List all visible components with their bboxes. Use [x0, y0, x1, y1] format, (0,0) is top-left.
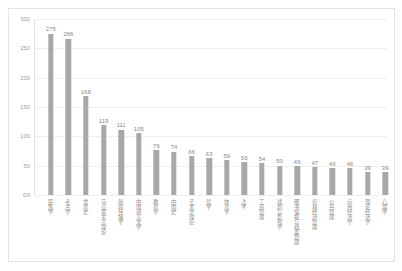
- x-axis-category: 中国语言文学: [130, 199, 148, 229]
- bar-value-label: 50: [276, 158, 283, 164]
- bar[interactable]: [118, 130, 123, 195]
- x-axis-category-label: 民族学: [48, 199, 54, 214]
- bar-value-label: 111: [117, 122, 126, 128]
- bar-slot[interactable]: 111: [112, 19, 130, 195]
- bar[interactable]: [224, 160, 229, 195]
- bar-value-label: 275: [46, 26, 56, 32]
- bar-value-label: 74: [171, 144, 178, 150]
- x-axis-category: 图书情报与档案管理: [288, 199, 306, 244]
- x-axis-category: 应用经济学: [341, 199, 359, 224]
- bar-slot[interactable]: 39: [359, 19, 377, 195]
- bar[interactable]: [83, 96, 88, 195]
- bar-value-label: 39: [382, 165, 389, 171]
- bar-value-label: 66: [188, 149, 195, 155]
- x-axis-category-label: 中国史: [171, 199, 177, 214]
- bar[interactable]: [347, 168, 352, 195]
- x-axis-category-label: 马克思主义理论: [100, 199, 106, 234]
- bar[interactable]: [136, 133, 141, 195]
- bar-slot[interactable]: 50: [271, 19, 289, 195]
- x-axis-category-label: 应用经济学: [347, 199, 353, 224]
- x-axis-category-label: 农林经济管理: [312, 199, 318, 229]
- bar-slot[interactable]: 66: [183, 19, 201, 195]
- bar[interactable]: [154, 150, 159, 195]
- bar-value-label: 168: [81, 89, 91, 95]
- bar-slot[interactable]: 168: [77, 19, 95, 195]
- bar[interactable]: [330, 168, 335, 195]
- x-axis-category-label: 工商管理: [259, 199, 265, 219]
- bar-slot[interactable]: 56: [236, 19, 254, 195]
- x-axis-category: 理论经济学: [359, 199, 377, 224]
- x-axis-category: 哲学: [200, 199, 218, 209]
- bar[interactable]: [259, 163, 264, 195]
- bar-slot[interactable]: 74: [165, 19, 183, 195]
- x-axis-category: 戏剧与影视学: [271, 199, 289, 229]
- bar-slot[interactable]: 54: [253, 19, 271, 195]
- bar-value-label: 59: [223, 153, 230, 159]
- y-axis-tick-label: 300: [20, 16, 30, 22]
- bar[interactable]: [206, 158, 211, 195]
- bar-value-label: 46: [329, 161, 336, 167]
- gridline: [34, 195, 387, 196]
- x-axis-category: 法学: [236, 199, 254, 209]
- x-axis-category-label: 图书情报与档案管理: [294, 199, 300, 244]
- bar-slot[interactable]: 275: [42, 19, 60, 195]
- bar[interactable]: [171, 152, 176, 195]
- y-axis-tick-label: 100: [20, 133, 30, 139]
- bar[interactable]: [277, 166, 282, 195]
- x-axis-category: 民族学: [42, 199, 60, 214]
- bar[interactable]: [242, 162, 247, 195]
- bar-value-label: 46: [347, 161, 354, 167]
- bar[interactable]: [189, 156, 194, 195]
- bar-slot[interactable]: 119: [95, 19, 113, 195]
- chart-frame: 050100150200250300 275266168119111105767…: [8, 8, 395, 262]
- bar-value-label: 63: [206, 151, 213, 157]
- bar-slot[interactable]: 105: [130, 19, 148, 195]
- bar[interactable]: [294, 166, 299, 195]
- y-axis-zero-label: 0: [23, 192, 26, 198]
- x-axis-category: 中国史: [165, 199, 183, 214]
- bar-slot[interactable]: 49: [288, 19, 306, 195]
- x-axis-category: 考古学: [60, 199, 78, 214]
- x-axis-category-label: 戏剧与影视学: [276, 199, 282, 229]
- plot-area: 050100150200250300 275266168119111105767…: [34, 19, 387, 195]
- bar[interactable]: [365, 172, 370, 195]
- bar-value-label: 105: [134, 126, 144, 132]
- bar-slot[interactable]: 46: [324, 19, 342, 195]
- y-axis-tick-label: 200: [20, 75, 30, 81]
- y-axis-tick-label: 0: [27, 192, 30, 198]
- bar-slot[interactable]: 59: [218, 19, 236, 195]
- bar-value-label: 47: [311, 160, 318, 166]
- bar-slot[interactable]: 47: [306, 19, 324, 195]
- x-axis-category: 体育学: [218, 199, 236, 214]
- x-axis-category-label: 心理学: [382, 199, 388, 214]
- x-axis-category: 工商管理: [253, 199, 271, 219]
- bar[interactable]: [312, 167, 317, 195]
- bar[interactable]: [48, 34, 53, 195]
- bar-value-label: 266: [63, 31, 73, 37]
- x-axis-category-label: 体育学: [224, 199, 230, 214]
- bar[interactable]: [101, 125, 106, 195]
- bar[interactable]: [66, 39, 71, 195]
- bar-value-label: 119: [99, 118, 109, 124]
- bar-slot[interactable]: 266: [60, 19, 78, 195]
- bar-slot[interactable]: 46: [341, 19, 359, 195]
- x-axis-category-label: 世界史: [83, 199, 89, 214]
- bar-slot[interactable]: 76: [148, 19, 166, 195]
- bar-value-label: 39: [364, 165, 371, 171]
- x-axis-category-label: 新闻传播学: [118, 199, 124, 224]
- x-axis-category-label: 理论经济学: [364, 199, 370, 224]
- x-axis-category-label: 考古学: [65, 199, 71, 214]
- bar-slot[interactable]: 63: [200, 19, 218, 195]
- x-axis-category: 马克思主义理论: [95, 199, 113, 234]
- bar-value-label: 54: [259, 156, 266, 162]
- y-axis-tick-label: 250: [20, 45, 30, 51]
- x-axis-category-label: 教育学: [153, 199, 159, 214]
- bar[interactable]: [382, 172, 387, 195]
- bar-slot[interactable]: 39: [376, 19, 394, 195]
- x-axis-category-label: 哲学: [206, 199, 212, 209]
- x-axis-category-label: 艺术学理论: [188, 199, 194, 224]
- x-axis-category: 世界史: [77, 199, 95, 214]
- x-axis-category-label: 中国语言文学: [136, 199, 142, 229]
- bar-value-label: 56: [241, 155, 248, 161]
- x-axis-category: 艺术学理论: [183, 199, 201, 224]
